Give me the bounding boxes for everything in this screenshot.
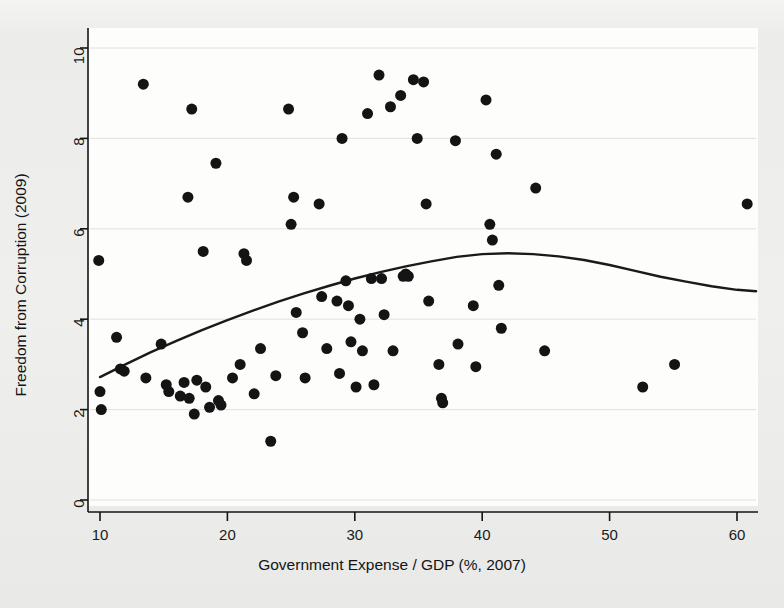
y-tick-label: 10: [70, 48, 87, 72]
y-axis-label: Freedom from Corruption (2009): [12, 140, 30, 430]
y-tick-label: 6: [70, 228, 87, 252]
x-tick-label: 40: [462, 526, 502, 543]
y-tick-label: 4: [70, 319, 87, 343]
x-tick-label: 20: [207, 526, 247, 543]
figure-container: Freedom from Corruption (2009) Governmen…: [0, 0, 784, 608]
x-tick-label: 30: [335, 526, 375, 543]
axis-lines: [88, 28, 758, 512]
tick-marks: [80, 48, 737, 521]
y-tick-label: 2: [70, 409, 87, 433]
x-tick-label: 10: [80, 526, 120, 543]
scatter-plot: [0, 0, 784, 608]
data-points: [93, 70, 752, 447]
x-tick-label: 60: [717, 526, 757, 543]
fit-curve: [100, 253, 756, 377]
x-tick-label: 50: [590, 526, 630, 543]
gridlines: [90, 48, 756, 500]
x-axis-label: Government Expense / GDP (%, 2007): [0, 556, 784, 574]
y-tick-label: 0: [70, 500, 87, 524]
y-tick-label: 8: [70, 138, 87, 162]
y-axis-label-wrap: Freedom from Corruption (2009): [6, 0, 32, 608]
